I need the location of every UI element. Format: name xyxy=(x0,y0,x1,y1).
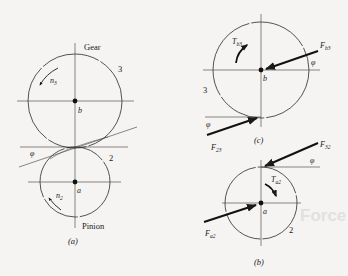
panel-c-caption: (c) xyxy=(254,135,264,145)
pinion-number: 2 xyxy=(289,225,293,235)
gear-speed-symbol: n3 xyxy=(50,76,57,86)
angle-label-top: φ xyxy=(311,58,316,67)
figure-page: Force Analysis—Spur Gearing xyxy=(0,0,348,276)
angle-label-bottom: φ xyxy=(206,120,211,129)
pinion-label: Pinion xyxy=(82,221,105,231)
pinion-number: 2 xyxy=(109,153,113,163)
torque-label: Ta2 xyxy=(271,175,281,185)
angle-label: φ xyxy=(310,156,315,165)
pinion-center-dot xyxy=(73,180,78,185)
contact-force-label: F23 xyxy=(210,143,222,153)
gear-force-diagram: Gear 3 n3 b φ 2 a n2 Pinion (a) Tb3 Fb3 xyxy=(0,0,348,276)
gear-number: 3 xyxy=(203,85,207,95)
contact-force-arrow-icon xyxy=(207,118,257,135)
gear-center-dot xyxy=(259,68,264,73)
panel-a-caption: (a) xyxy=(68,236,78,246)
torque-label: Tb3 xyxy=(232,37,242,47)
panel-b-pinion-free-body: F32 φ Ta2 a Fa2 2 (b) xyxy=(204,140,331,267)
torque-arrow-icon xyxy=(265,184,276,196)
bearing-force-arrow-icon xyxy=(204,205,256,222)
panel-a-meshing-gears: Gear 3 n3 b φ 2 a n2 Pinion (a) xyxy=(17,42,137,246)
pinion-speed-symbol: n2 xyxy=(56,191,63,201)
bearing-force-label: Fa2 xyxy=(204,229,216,239)
pinion-center-dot xyxy=(259,201,264,206)
pinion-center-label: a xyxy=(77,186,81,195)
panel-c-gear-free-body: Tb3 Fb3 φ b 3 φ F23 (c) xyxy=(203,14,331,153)
pressure-angle-label: φ xyxy=(30,149,35,158)
pinion-center-label: a xyxy=(263,207,267,216)
gear-center-label: b xyxy=(78,106,82,115)
panel-b-caption: (b) xyxy=(254,257,264,267)
bearing-force-label: Fb3 xyxy=(319,41,331,51)
gear-label: Gear xyxy=(84,42,101,52)
gear-center-label: b xyxy=(263,74,267,83)
contact-force-label: F32 xyxy=(319,140,331,150)
gear-center-dot xyxy=(73,99,78,104)
gear-number: 3 xyxy=(118,64,122,74)
torque-arrow-icon xyxy=(236,45,247,63)
